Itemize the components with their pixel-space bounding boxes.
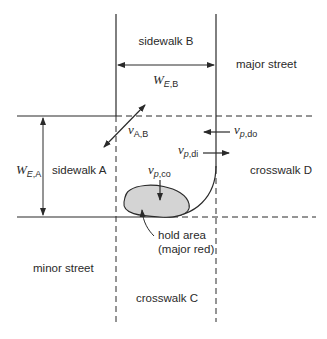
crosswalk-d-label: crosswalk D — [250, 164, 312, 176]
crosswalk-c-label: crosswalk C — [136, 292, 198, 304]
v-ab-symbol: vA,B — [128, 122, 148, 139]
sidewalk-a-label: sidewalk A — [52, 164, 107, 176]
hold-area-label-line2: (major red) — [158, 243, 214, 255]
sidewalk-b-label: sidewalk B — [139, 35, 194, 47]
minor-street-label: minor street — [33, 262, 95, 274]
intersection-diagram: sidewalk B major street sidewalk A cross… — [0, 0, 327, 339]
v-ab-flow-arrow — [104, 105, 145, 147]
v-pco-symbol: vp,co — [148, 162, 171, 179]
hold-area-shape — [124, 185, 189, 217]
w-ea-symbol: WE,A — [16, 162, 41, 179]
hold-area-label-line1: hold area — [158, 229, 207, 241]
v-pdi-symbol: vp,di — [178, 142, 198, 159]
w-eb-symbol: WE,B — [153, 72, 178, 89]
v-pdo-symbol: vp,do — [234, 122, 257, 139]
major-street-label: major street — [236, 58, 298, 70]
